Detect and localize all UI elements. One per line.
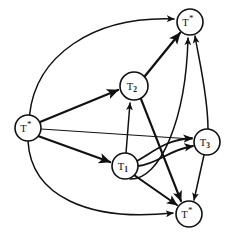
graph-canvas: T* T* T* T1 T2 T3: [0, 0, 231, 240]
edge-layer: [28, 19, 208, 215]
edge-t3-to-bottom: [194, 155, 204, 200]
edge-t2-to-bottom: [141, 99, 181, 201]
node-t2[interactable]: T2: [120, 72, 148, 100]
node-t-bottom[interactable]: T*: [176, 201, 202, 227]
node-t-source[interactable]: T*: [15, 115, 41, 141]
task-precedence-graph: T* T* T* T1 T2 T3: [0, 0, 231, 240]
node-t1[interactable]: T1: [112, 153, 138, 179]
edge-t1-to-t2: [126, 103, 130, 153]
edge-source-to-t1: [38, 136, 110, 162]
edge-source-to-t2: [40, 90, 118, 122]
edge-t3-to-top: [195, 36, 208, 129]
node-t3[interactable]: T3: [194, 129, 220, 155]
edge-source-to-t3: [41, 129, 192, 139]
node-layer: T* T* T* T1 T2 T3: [15, 9, 220, 227]
node-t-top[interactable]: T*: [177, 9, 203, 35]
edge-t2-to-top: [145, 33, 180, 76]
edge-t1-to-bottom: [134, 175, 177, 205]
